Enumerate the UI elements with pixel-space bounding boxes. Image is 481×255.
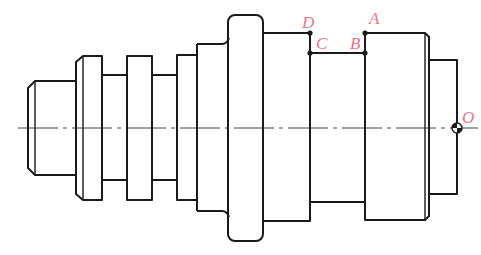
- label-c: C: [316, 34, 328, 53]
- center-point-o-icon: [452, 123, 462, 133]
- section-a: [365, 33, 429, 220]
- label-d: D: [301, 13, 315, 32]
- section-d: [263, 33, 310, 221]
- shaft-drawing: A B C D O: [0, 0, 481, 255]
- point-b-dot: [362, 50, 367, 55]
- point-c-dot: [307, 50, 312, 55]
- label-a: A: [368, 9, 380, 28]
- point-a-dot: [362, 30, 367, 35]
- label-b: B: [350, 34, 361, 53]
- label-o: O: [462, 108, 474, 127]
